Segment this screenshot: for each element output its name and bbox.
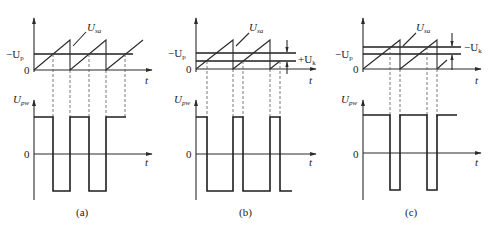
zero-label: 0	[353, 63, 359, 75]
pwm-waveform-figure: Usa −Up 0 t Upw 0 t (a)	[0, 0, 492, 232]
panel-b-sawtooth-plot: Usa +Uk −Up 0 t	[168, 18, 316, 86]
ref-label: −Up	[168, 47, 186, 61]
panel-caption: (b)	[239, 206, 252, 219]
signal-leader-line	[73, 32, 86, 46]
panel-a: Usa −Up 0 t Upw 0 t (a)	[6, 18, 152, 219]
panel-b: Usa +Uk −Up 0 t Upw 0 t (b)	[168, 18, 316, 219]
signal-label: Usa	[416, 21, 431, 35]
panel-caption: (a)	[76, 206, 89, 219]
panel-caption: (c)	[405, 206, 418, 219]
panel-c-pwm-plot: Upw 0 t	[341, 93, 481, 200]
t-label: t	[145, 156, 149, 168]
t-label: t	[309, 156, 313, 168]
panel-c-sawtooth-plot: Usa −Uk −Up 0 t	[335, 18, 482, 86]
panel-c: Usa −Uk −Up 0 t Upw 0 t (c)	[335, 18, 482, 219]
shift-label: −Uk	[464, 41, 482, 55]
pwm-label: Upw	[341, 93, 357, 107]
signal-label: Usa	[249, 21, 264, 35]
signal-label: Usa	[87, 21, 102, 35]
t-label: t	[145, 74, 149, 86]
ref-label: −Up	[6, 48, 24, 62]
pwm-label: Upw	[13, 93, 29, 107]
t-label: t	[309, 74, 313, 86]
panel-c-projection-lines	[390, 47, 437, 117]
zero-label: 0	[186, 148, 192, 160]
zero-label: 0	[186, 63, 192, 75]
t-label: t	[475, 74, 479, 86]
panel-b-pwm-plot: Upw 0 t	[174, 93, 316, 200]
shift-label: +Uk	[298, 53, 316, 67]
signal-leader-line	[403, 33, 416, 46]
zero-label: 0	[353, 148, 359, 160]
zero-label: 0	[24, 148, 30, 160]
sawtooth-signal-tail	[437, 60, 447, 69]
panel-a-sawtooth-plot: Usa −Up 0 t	[6, 18, 152, 86]
panel-a-pwm-plot: Upw 0 t	[13, 93, 152, 200]
signal-leader-line	[236, 33, 249, 46]
zero-label: 0	[24, 64, 30, 76]
pwm-label: Upw	[174, 93, 190, 107]
sawtooth-signal	[34, 40, 143, 70]
ref-label: −Up	[335, 48, 353, 62]
t-label: t	[475, 156, 479, 168]
